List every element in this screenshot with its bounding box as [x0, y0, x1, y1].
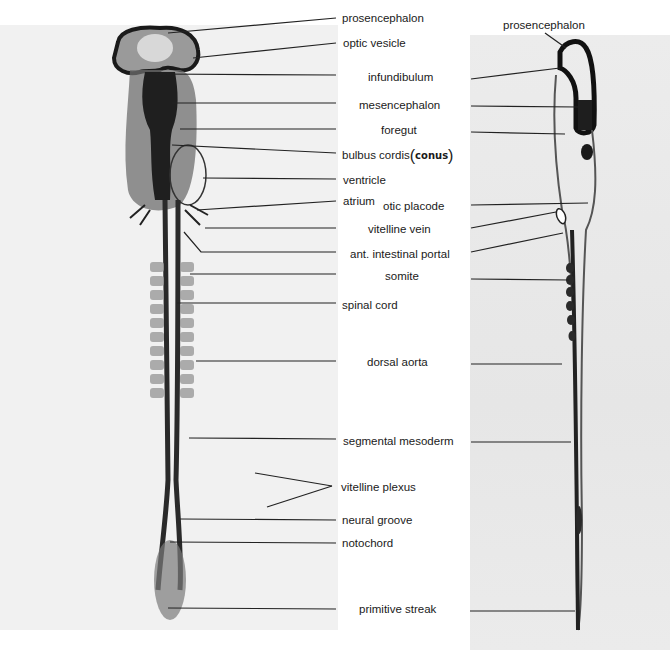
label-spinal-cord: spinal cord [342, 299, 398, 312]
label-foregut: foregut [381, 124, 417, 137]
label-otic-placode: otic placode [383, 200, 444, 213]
label-infundibulum: infundibulum [368, 71, 433, 84]
label-vitelline-vein: vitelline vein [368, 223, 431, 236]
label-dorsal-aorta: dorsal aorta [367, 356, 428, 369]
label-optic-vesicle: optic vesicle [343, 37, 406, 50]
label-conus-handwritten: conus [415, 150, 448, 161]
label-atrium: atrium [343, 195, 375, 208]
label-bulbus-cordis: bulbus cordis(conus) [342, 149, 453, 162]
label-primitive-streak: primitive streak [359, 603, 436, 616]
label-notochord: notochord [342, 537, 393, 550]
figure-drawing [0, 0, 670, 658]
left-embryo [114, 28, 208, 620]
label-vitelline-plexus: vitelline plexus [341, 481, 416, 494]
label-segmental-mesoderm: segmental mesoderm [343, 435, 454, 448]
label-mesencephalon: mesencephalon [359, 99, 440, 112]
label-neural-groove: neural groove [342, 514, 412, 527]
right-section [554, 42, 595, 630]
label-right-prosencephalon: prosencephalon [503, 19, 585, 32]
label-prosencephalon: prosencephalon [342, 12, 424, 25]
label-bulbus-cordis-text: bulbus cordis [342, 149, 410, 161]
label-somite: somite [385, 270, 419, 283]
label-ventricle: ventricle [343, 174, 386, 187]
label-ant-intestinal-portal: ant. intestinal portal [350, 248, 450, 261]
